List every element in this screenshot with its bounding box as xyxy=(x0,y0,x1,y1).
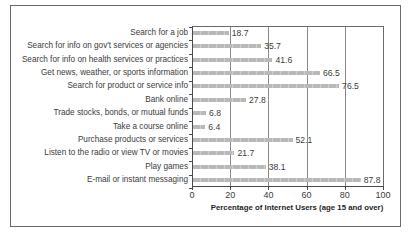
bar xyxy=(193,151,234,155)
bar xyxy=(193,44,261,48)
bar-value-label: 6.4 xyxy=(208,122,220,132)
gridline xyxy=(230,27,231,186)
bar xyxy=(193,84,339,88)
y-tick-mark xyxy=(189,161,193,162)
y-tick-mark xyxy=(189,81,193,82)
category-label: Search for a job xyxy=(130,28,188,38)
y-tick-mark xyxy=(189,188,193,189)
plot-area xyxy=(192,26,384,187)
category-label: Search for product or service info xyxy=(67,81,188,91)
x-tick-label: 80 xyxy=(330,190,360,200)
bar-value-label: 6.8 xyxy=(209,108,221,118)
category-label: Purchase products or services xyxy=(78,135,188,145)
bar-value-label: 35.7 xyxy=(264,41,281,51)
gridline xyxy=(345,27,346,186)
x-tick-label: 100 xyxy=(368,190,398,200)
bar-value-label: 76.5 xyxy=(342,81,359,91)
bar xyxy=(193,71,320,75)
bar xyxy=(193,125,205,129)
y-tick-mark xyxy=(189,134,193,135)
y-tick-mark xyxy=(189,67,193,68)
bar-value-label: 66.5 xyxy=(323,68,340,78)
category-label: Listen to the radio or view TV or movies xyxy=(44,148,188,158)
bar-value-label: 41.6 xyxy=(275,55,292,65)
category-label: Get news, weather, or sports information xyxy=(41,68,188,78)
category-label: Bank online xyxy=(145,95,188,105)
x-tick-label: 40 xyxy=(253,190,283,200)
category-label: Trade stocks, bonds, or mutual funds xyxy=(54,108,188,118)
category-label: Search for info on health services or pr… xyxy=(22,55,188,65)
x-tick-label: 0 xyxy=(177,190,207,200)
y-tick-mark xyxy=(189,148,193,149)
bar-value-label: 21.7 xyxy=(237,148,254,158)
y-tick-mark xyxy=(189,94,193,95)
gridline xyxy=(307,27,308,186)
x-tick-label: 60 xyxy=(292,190,322,200)
bar-value-label: 52.1 xyxy=(296,135,313,145)
bar xyxy=(193,58,272,62)
bar xyxy=(193,138,293,142)
bar xyxy=(193,165,266,169)
bar-value-label: 87.8 xyxy=(364,175,381,185)
bar xyxy=(193,31,229,35)
y-tick-mark xyxy=(189,54,193,55)
category-label: E-mail or instant messaging xyxy=(87,175,188,185)
bar xyxy=(193,98,246,102)
y-tick-mark xyxy=(189,40,193,41)
category-label: Play games xyxy=(145,162,188,172)
bar xyxy=(193,178,361,182)
category-label: Search for info on gov't services or age… xyxy=(27,41,188,51)
bar xyxy=(193,111,206,115)
category-label: Take a course online xyxy=(113,122,188,132)
y-tick-mark xyxy=(189,175,193,176)
y-tick-mark xyxy=(189,121,193,122)
x-axis-title: Percentage of Internet Users (age 15 and… xyxy=(192,203,402,212)
y-tick-mark xyxy=(189,27,193,28)
x-tick-label: 20 xyxy=(215,190,245,200)
y-tick-mark xyxy=(189,108,193,109)
bar-value-label: 38.1 xyxy=(269,162,286,172)
bar-value-label: 18.7 xyxy=(232,28,249,38)
bar-value-label: 27.8 xyxy=(249,95,266,105)
